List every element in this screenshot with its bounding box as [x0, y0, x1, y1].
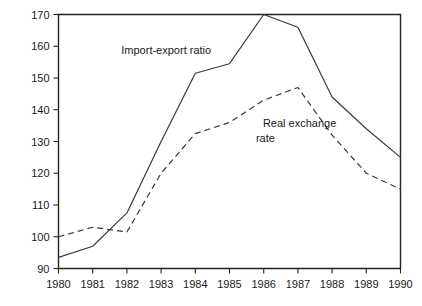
- x-tick-label-1986: 1986: [251, 278, 275, 290]
- x-tick-label-1985: 1985: [217, 278, 241, 290]
- series-annotation-1: Real exchange: [263, 117, 336, 129]
- series-annotation-2: rate: [256, 132, 275, 144]
- x-tick-label-1984: 1984: [183, 278, 207, 290]
- y-tick-label-140: 140: [31, 104, 49, 116]
- x-tick-label-1980: 1980: [46, 278, 70, 290]
- data-series-layer: [59, 15, 401, 258]
- series-line-real-exchange-rate: [59, 88, 401, 237]
- x-tick-label-1982: 1982: [115, 278, 139, 290]
- y-tick-label-170: 170: [31, 9, 49, 21]
- x-tick-label-1981: 1981: [80, 278, 104, 290]
- series-annotations-layer: Import-export ratioReal exchangerate: [121, 44, 336, 144]
- y-tick-label-110: 110: [32, 199, 50, 211]
- axis-ticks-layer: [54, 15, 401, 274]
- x-tick-label-1987: 1987: [286, 278, 310, 290]
- chart-canvas: 90100110120130140150160170 1980198119821…: [0, 0, 422, 306]
- x-tick-label-1983: 1983: [149, 278, 173, 290]
- series-line-import-export-ratio: [59, 15, 401, 258]
- x-axis-tick-labels: 1980198119821983198419851986198719881989…: [46, 278, 412, 290]
- y-tick-label-120: 120: [31, 167, 49, 179]
- x-tick-label-1989: 1989: [354, 278, 378, 290]
- y-tick-label-100: 100: [31, 231, 49, 243]
- series-annotation-0: Import-export ratio: [121, 44, 211, 56]
- x-tick-label-1988: 1988: [320, 278, 344, 290]
- line-chart: 90100110120130140150160170 1980198119821…: [0, 0, 422, 306]
- y-tick-label-160: 160: [31, 40, 49, 52]
- x-tick-label-1990: 1990: [388, 278, 412, 290]
- y-tick-label-90: 90: [37, 263, 49, 275]
- y-axis-tick-labels: 90100110120130140150160170: [31, 9, 49, 275]
- y-tick-label-150: 150: [31, 72, 49, 84]
- y-tick-label-130: 130: [31, 136, 49, 148]
